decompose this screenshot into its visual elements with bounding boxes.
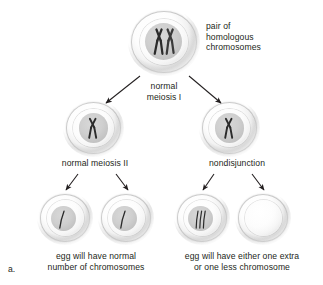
label-meiosis-one-line1: normal [129,81,199,92]
meiosis-nondisjunction-diagram: pair of homologous chromosomes normal me… [0,0,323,285]
label-homologous-line1: pair of [206,21,261,32]
label-normal-meiosis-two: normal meiosis II [34,158,156,169]
meiosis-one-cell-left [66,102,121,154]
label-meiosis-one-line2: meiosis I [129,92,199,103]
egg-cell-normal-2-chromosomes [113,206,137,232]
caption-abnormal-egg: egg will have either one extra or one le… [166,251,318,272]
meiosis-one-cell-right [202,102,257,154]
meiosis-one-right-chromosomes [217,113,242,142]
caption-normal-egg: egg will have normal number of chromosom… [30,251,162,272]
caption-normal-egg-line2: number of chromosomes [30,262,162,273]
egg-cell-normal-1 [40,194,90,242]
arrow-right-to-egg4 [252,174,264,190]
label-nondisjunction: nondisjunction [189,158,285,169]
label-meiosis-two-text: normal meiosis II [34,158,156,169]
caption-abnormal-egg-line1: egg will have either one extra [166,251,318,262]
label-normal-meiosis-one: normal meiosis I [129,81,199,102]
egg-cell-extra-chromosomes [189,206,213,232]
caption-abnormal-egg-line2: or one less chromosome [166,262,318,273]
parent-cell-chromosomes [147,23,181,60]
arrow-left-to-egg1 [66,174,78,190]
label-homologous-chromosomes: pair of homologous chromosomes [206,21,261,53]
egg-cell-extra-chromosome [177,194,227,242]
parent-cell [131,11,197,73]
egg-cell-normal-2 [101,194,151,242]
arrow-right-to-egg3 [203,174,214,190]
caption-normal-egg-line1: egg will have normal [30,251,162,262]
egg-cell-normal-1-chromosomes [52,206,76,232]
label-nondisjunction-text: nondisjunction [189,158,285,169]
arrow-left-to-egg2 [116,174,128,190]
label-homologous-line3: chromosomes [206,42,261,53]
label-homologous-line2: homologous [206,32,261,43]
figure-label: a. [8,264,15,275]
egg-cell-missing-chromosome [238,194,288,242]
meiosis-one-left-chromosomes [81,113,106,142]
